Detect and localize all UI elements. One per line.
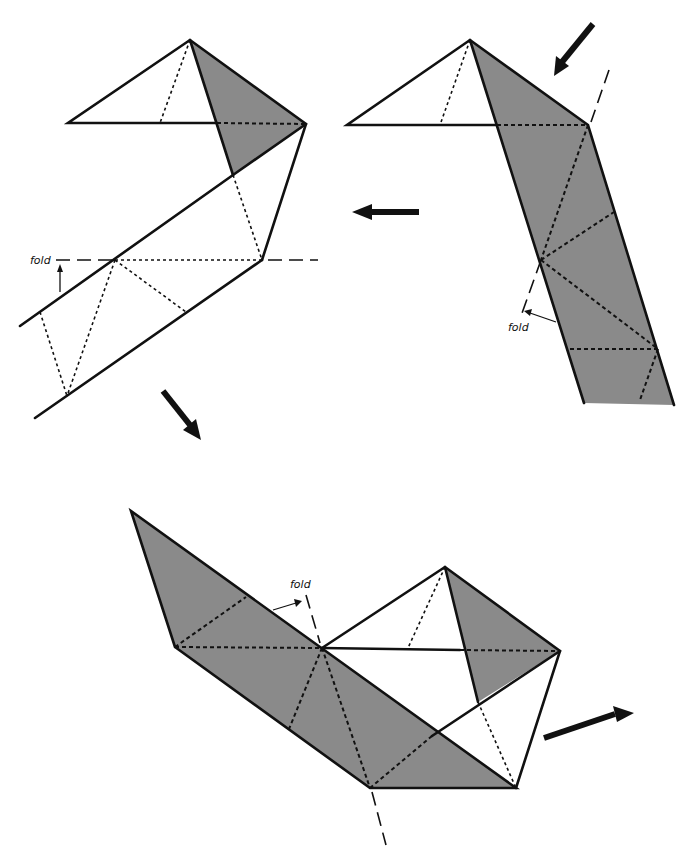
arrow-down-right-icon — [163, 391, 201, 440]
arrow-up-right-icon — [544, 706, 634, 738]
step-1-shaded-triangle — [190, 40, 306, 175]
step-1-fold-label: fold — [30, 254, 52, 267]
step-2-shaded-strip — [470, 40, 674, 405]
step-1-figure: fold — [20, 40, 318, 418]
step-2-figure: fold — [347, 40, 674, 405]
step-2-fold-line — [591, 70, 609, 122]
arrow-down-left-icon — [554, 24, 593, 76]
step-2-fold-label: fold — [508, 321, 530, 334]
step-3-fold-arrow — [273, 603, 296, 610]
origami-diagram: fold fold — [0, 0, 694, 856]
step-3-figure: fold — [131, 511, 560, 845]
step-1-strip-lower-edge — [35, 260, 262, 418]
step-3-fold-line — [306, 595, 320, 643]
arrow-left-icon — [352, 204, 419, 220]
step-3-fold-label: fold — [290, 578, 312, 591]
step-2-fold-arrow — [530, 313, 556, 322]
